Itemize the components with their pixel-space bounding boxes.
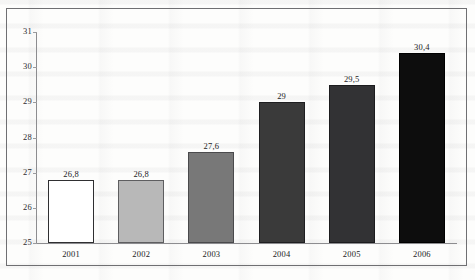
y-axis-tick-label: 25 [23,237,32,247]
x-axis-label-slot: 2005 [317,0,387,280]
y-axis-tick-label: 28 [23,132,32,142]
x-axis-label-slot: 2001 [36,0,106,280]
x-axis-label-slot: 2006 [387,0,457,280]
x-axis-tick-label: 2005 [317,249,387,259]
y-axis-tick-label: 31 [23,26,32,36]
x-axis-label-slot: 2003 [176,0,246,280]
x-axis-tick-label: 2006 [387,249,457,259]
x-axis-tick-label: 2004 [247,249,317,259]
y-axis-tick-label: 30 [23,61,32,71]
y-axis-tick-label: 27 [23,167,32,177]
y-axis-tick-label: 26 [23,202,32,212]
figure-root: 25262728293031 26,826,827,62929,530,4 20… [0,0,475,280]
x-axis-tick-label: 2003 [176,249,246,259]
y-axis-tick-label: 29 [23,96,32,106]
x-axis-tick-label: 2002 [106,249,176,259]
bar-chart-plot: 25262728293031 26,826,827,62929,530,4 20… [0,0,475,280]
x-axis-label-slot: 2004 [247,0,317,280]
x-axis-tick-label: 2001 [36,249,106,259]
x-axis-label-slot: 2002 [106,0,176,280]
